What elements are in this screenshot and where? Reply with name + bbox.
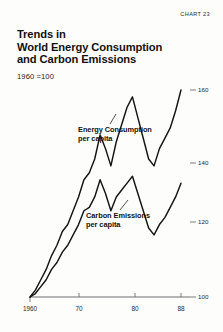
- y-tick-label-100: 100: [198, 293, 209, 300]
- series-line-carbon-emissions: [30, 176, 181, 297]
- leader-line-carbon: [120, 200, 128, 210]
- y-tick-label-140: 140: [198, 159, 209, 166]
- annotation-carbon-emissions: Carbon Emissions per capita: [86, 212, 150, 229]
- x-tick-label-70: 70: [75, 305, 83, 312]
- y-tick-marks: [190, 90, 196, 297]
- annotation-energy-line-2: per capita: [78, 135, 152, 144]
- chart-plot-area: 1960 70 80 88 100 120 140 160: [0, 0, 223, 332]
- leader-line-energy: [110, 114, 116, 124]
- x-tick-label-1960: 1960: [23, 305, 38, 312]
- y-tick-label-120: 120: [198, 218, 209, 225]
- x-tick-label-80: 80: [131, 305, 139, 312]
- y-tick-label-160: 160: [198, 86, 209, 93]
- chart-figure: CHART 23 Trends in World Energy Consumpt…: [0, 0, 223, 332]
- x-tick-label-88: 88: [177, 305, 185, 312]
- annotation-carbon-line-2: per capita: [86, 221, 150, 230]
- annotation-energy-consumption: Energy Consumption per capita: [78, 126, 152, 143]
